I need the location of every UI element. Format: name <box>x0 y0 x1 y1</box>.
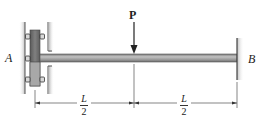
dim-left-numerator: L <box>81 94 87 104</box>
beam-diagram: A B P L 2 L 2 <box>0 0 260 128</box>
beam <box>40 54 237 62</box>
support-label-a: A <box>5 52 12 64</box>
dim-right-denominator: 2 <box>182 107 187 117</box>
dimension-label-left: L 2 <box>77 94 91 117</box>
support-label-b: B <box>248 53 255 65</box>
right-wall-shade <box>237 38 244 80</box>
right-fixed-support <box>237 38 244 80</box>
dimension-label-right: L 2 <box>177 94 191 117</box>
dim-left-denominator: 2 <box>82 107 87 117</box>
dim-right-numerator: L <box>181 94 187 104</box>
left-guide-shade <box>19 22 25 94</box>
load-label-p: P <box>129 9 136 21</box>
dimension-lines <box>35 64 237 108</box>
load-arrow-icon <box>131 22 138 54</box>
